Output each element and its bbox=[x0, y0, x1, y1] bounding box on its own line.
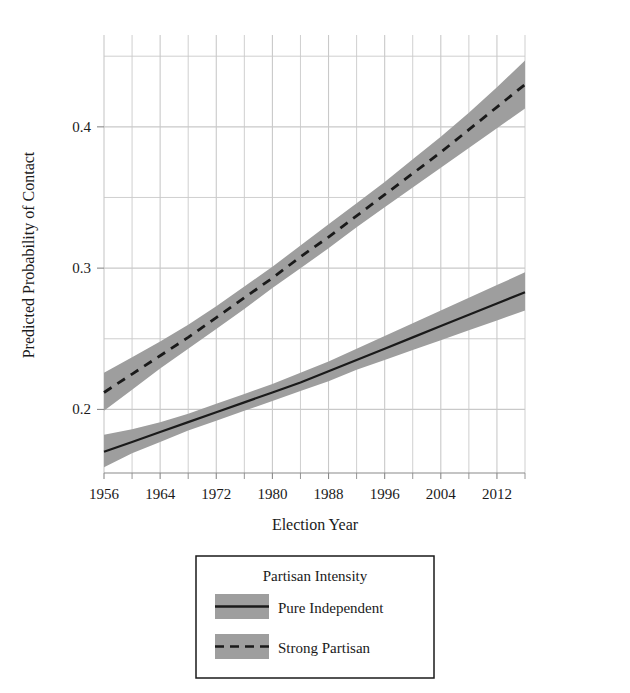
y-axis-title: Predicted Probability of Contact bbox=[20, 151, 38, 358]
chart-legend: Partisan Intensity Pure Independent Stro… bbox=[196, 556, 434, 678]
x-tick-label: 1996 bbox=[370, 486, 401, 502]
x-tick-label: 1972 bbox=[201, 486, 231, 502]
legend-title: Partisan Intensity bbox=[263, 568, 368, 584]
x-tick-label: 1956 bbox=[89, 486, 120, 502]
legend-item-label: Strong Partisan bbox=[278, 640, 371, 656]
chart-svg: 19561964197219801988199620042012 0.20.30… bbox=[0, 0, 630, 693]
legend-item-label: Pure Independent bbox=[278, 600, 384, 616]
y-tick-label: 0.3 bbox=[72, 260, 91, 276]
x-tick-label: 1988 bbox=[314, 486, 344, 502]
x-tick-label: 1964 bbox=[145, 486, 176, 502]
x-tick-label: 1980 bbox=[257, 486, 287, 502]
x-tick-label: 2012 bbox=[482, 486, 512, 502]
x-axis-title: Election Year bbox=[272, 516, 359, 533]
chart-figure: 19561964197219801988199620042012 0.20.30… bbox=[0, 0, 630, 693]
y-tick-label: 0.4 bbox=[72, 119, 91, 135]
x-tick-label: 2004 bbox=[426, 486, 457, 502]
y-tick-label: 0.2 bbox=[72, 401, 91, 417]
